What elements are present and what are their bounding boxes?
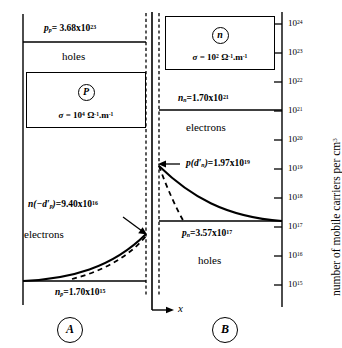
n-sigma-symbol: σ — [193, 52, 198, 62]
pp-value-label: pp= 3.68x1023 — [44, 23, 96, 33]
y-axis-title-exponent: 3 — [331, 138, 339, 142]
y-axis-ticks — [274, 24, 282, 285]
ytick-exponent: 18 — [297, 193, 303, 199]
n-region-box: n σ = 102 Ω-1.m-1 — [165, 16, 275, 70]
right-electrons-label: electrons — [186, 121, 226, 133]
pn-exponent: 17 — [226, 229, 232, 235]
left-electrons-label: electrons — [24, 228, 64, 240]
ytick-label: 1019 — [288, 163, 303, 173]
y-axis-title-text: number of mobile carriers per cm — [330, 142, 342, 296]
ytick-mantissa: 10 — [288, 163, 297, 173]
ytick-label: 1022 — [288, 76, 303, 86]
ytick-label: 1015 — [288, 279, 303, 289]
y-axis-title: number of mobile carriers per cm3 — [330, 138, 342, 296]
n-sigma-meter: .m — [233, 52, 243, 62]
p-sigma-meter: .m — [99, 110, 109, 120]
n-sigma-equals: = 10 — [200, 52, 216, 62]
n-sigma-exponent: 2 — [216, 53, 219, 59]
np-exponent: 15 — [100, 288, 106, 294]
pn-value-label: pn=3.57x1017 — [182, 228, 232, 238]
p-type-symbol: P — [78, 84, 95, 101]
n-type-symbol: n — [212, 27, 229, 44]
pn-value: =3.57x10 — [190, 228, 226, 238]
ytick-mantissa: 10 — [288, 279, 297, 289]
right-holes-label: holes — [198, 254, 221, 266]
ytick-label: 1021 — [288, 105, 303, 115]
ytick-mantissa: 10 — [288, 134, 297, 144]
ytick-exponent: 17 — [297, 222, 303, 228]
nn-value: =1.70x10 — [187, 93, 223, 103]
electron-injection-curve — [23, 234, 146, 281]
pdn-argument: (d′ — [191, 158, 202, 168]
ytick-label: 1024 — [288, 18, 303, 28]
left-holes-label: holes — [62, 50, 85, 62]
ytick-exponent: 22 — [297, 77, 303, 83]
ytick-mantissa: 10 — [288, 221, 297, 231]
n-sigma-meter-exp: -1 — [243, 53, 248, 59]
region-a-label: A — [57, 317, 83, 343]
ytick-mantissa: 10 — [288, 192, 297, 202]
pp-value: = 3.68x10 — [52, 23, 91, 33]
ndp-value: =9.40x10 — [56, 199, 92, 209]
ytick-exponent: 15 — [297, 280, 303, 286]
nn-exponent: 21 — [223, 94, 229, 100]
ytick-exponent: 20 — [297, 135, 303, 141]
pp-exponent: 23 — [90, 24, 96, 30]
x-axis-indicator — [152, 307, 174, 313]
hole-injection-curve — [159, 166, 282, 221]
ndp-exponent: 16 — [92, 200, 98, 206]
x-axis-label: x — [178, 303, 183, 314]
pdn-exponent: 19 — [244, 159, 250, 165]
np-value-label: np=1.70x1015 — [55, 287, 105, 297]
np-value: =1.70x10 — [63, 287, 99, 297]
pdn-value: =1.97x10 — [208, 158, 244, 168]
p-sigma-equals: = 10 — [66, 110, 82, 120]
ytick-exponent: 16 — [297, 251, 303, 257]
ytick-label: 1018 — [288, 192, 303, 202]
ytick-mantissa: 10 — [288, 76, 297, 86]
ytick-exponent: 19 — [297, 164, 303, 170]
pdn-value-label: p(d′n)=1.97x1019 — [186, 158, 250, 168]
ytick-label: 1023 — [288, 47, 303, 57]
ytick-exponent: 21 — [297, 106, 303, 112]
p-sigma-meter-exp: -1 — [109, 111, 114, 117]
hole-injection-tangent — [159, 166, 184, 222]
ytick-mantissa: 10 — [288, 105, 297, 115]
pdn-annotation-arrow — [158, 161, 180, 168]
ndp-annotation-arrow — [123, 217, 147, 235]
ytick-label: 1020 — [288, 134, 303, 144]
ytick-exponent: 23 — [297, 48, 303, 54]
p-sigma-exponent: 4 — [82, 111, 85, 117]
p-sigma-symbol: σ — [59, 110, 64, 120]
ndp-value-label: n(−d′p)=9.40x1016 — [28, 199, 98, 209]
ytick-mantissa: 10 — [288, 18, 297, 28]
ytick-label: 1017 — [288, 221, 303, 231]
ndp-argument: (−d′ — [33, 199, 49, 209]
ytick-mantissa: 10 — [288, 47, 297, 57]
ytick-label: 1016 — [288, 250, 303, 260]
ytick-exponent: 24 — [297, 19, 303, 25]
p-region-box: P σ = 104 Ω-1.m-1 — [26, 72, 146, 128]
ytick-mantissa: 10 — [288, 250, 297, 260]
nn-value-label: nn=1.70x1021 — [178, 93, 229, 103]
region-b-label: B — [212, 317, 238, 343]
